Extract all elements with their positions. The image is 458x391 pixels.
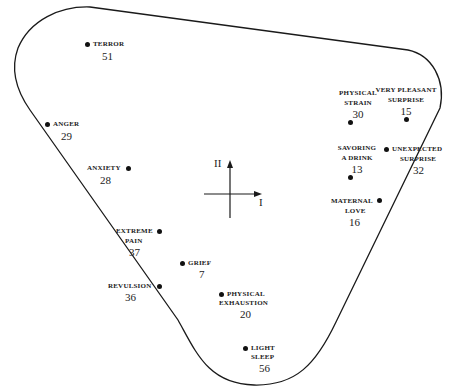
point-number-maternal-love: 16 bbox=[349, 216, 360, 228]
point-number-savoring-a-drink: 13 bbox=[330, 163, 384, 175]
point-number-extreme-pain: 37 bbox=[129, 246, 140, 258]
point-label-savoring-a-drink-line1: SAVORING bbox=[330, 144, 384, 154]
point-label-anxiety: ANXIETY bbox=[87, 164, 121, 174]
point-label-maternal-love-line1: MATERNAL bbox=[331, 197, 373, 207]
point-number-terror: 51 bbox=[102, 50, 113, 62]
point-number-unexpected-surprise: 32 bbox=[413, 164, 424, 176]
point-number-very-pleasant-surprise: 15 bbox=[370, 105, 442, 117]
point-dot-savoring-a-drink bbox=[348, 175, 353, 180]
point-dot-anxiety bbox=[126, 166, 131, 171]
point-dot-grief bbox=[180, 261, 185, 266]
point-dot-terror bbox=[85, 42, 90, 47]
point-dot-anger bbox=[45, 122, 50, 127]
point-number-physical-exhaustion: 20 bbox=[240, 308, 251, 320]
point-dot-maternal-love bbox=[377, 198, 382, 203]
point-number-grief: 7 bbox=[199, 268, 205, 280]
point-number-revulsion: 36 bbox=[125, 291, 136, 303]
point-label-extreme-pain-line1: EXTREME bbox=[116, 227, 153, 237]
emotion-diagram: II I TERROR 51 ANGER 29 ANXIETY 28 EXTRE… bbox=[0, 0, 458, 391]
point-number-anxiety: 28 bbox=[100, 174, 111, 186]
point-dot-physical-strain bbox=[348, 120, 353, 125]
point-dot-light-sleep bbox=[243, 346, 248, 351]
diagram-outline bbox=[0, 0, 458, 391]
axis-label-ii: II bbox=[214, 157, 221, 169]
point-label-anger: ANGER bbox=[53, 120, 79, 130]
point-dot-revulsion bbox=[157, 284, 162, 289]
point-dot-unexpected-surprise bbox=[384, 147, 389, 152]
point-label-unexpected-surprise-line1: UNEXPECTED bbox=[392, 145, 442, 155]
point-number-light-sleep: 56 bbox=[259, 362, 270, 374]
point-dot-extreme-pain bbox=[157, 229, 162, 234]
point-dot-physical-exhaustion bbox=[219, 292, 224, 297]
boundary-curve bbox=[14, 7, 441, 385]
axis-label-i: I bbox=[259, 196, 263, 208]
point-label-very-pleasant-surprise-line1: VERY PLEASANT bbox=[370, 86, 442, 96]
point-label-terror: TERROR bbox=[93, 40, 124, 50]
point-number-anger: 29 bbox=[61, 130, 72, 142]
axis-vertical-arrow bbox=[227, 160, 233, 168]
point-dot-very-pleasant-surprise bbox=[404, 117, 409, 122]
